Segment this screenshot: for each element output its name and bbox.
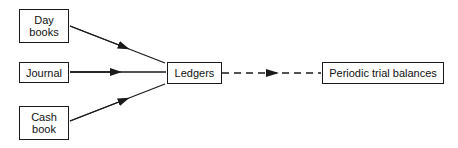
node-day-books: Day books [19,9,69,43]
node-cash-book: Cash book [19,106,69,140]
arrow-ledgers-to-trial-balances [222,69,321,77]
arrow-cash-book-to-ledgers [70,84,165,121]
node-journal: Journal [19,62,69,83]
node-periodic-trial-balances: Periodic trial balances [322,62,444,84]
node-ledgers: Ledgers [167,62,222,84]
arrow-day-books-to-ledgers [70,26,165,63]
